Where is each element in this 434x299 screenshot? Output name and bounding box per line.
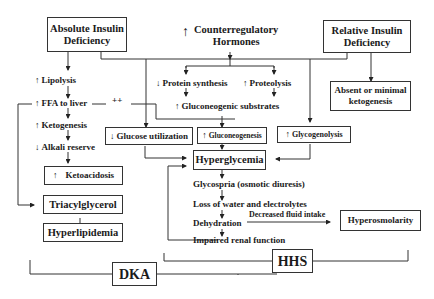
relative-insulin-line2: Deficiency [344, 37, 391, 49]
ffa-to-liver-label: FFA to liver [42, 98, 88, 108]
glucose-utilization-label: Glucose utilization [116, 131, 188, 142]
absent-ketogenesis-line2: ketogenesis [349, 96, 393, 107]
protein-synthesis-label: Protein synthesis [163, 78, 228, 88]
protein-synthesis-node: ↓Protein synthesis [156, 78, 228, 89]
up-arrow-icon: ↑ [285, 129, 290, 140]
glycogenolysis-box: ↑Glycogenolysis [277, 126, 351, 143]
up-arrow-icon: ↑ [53, 170, 58, 181]
glucose-utilization-box: ↓Glucose utilization [105, 127, 193, 145]
hyperlipidemia-label: Hyperlipidemia [48, 227, 119, 239]
up-arrow-icon: ↑ [175, 101, 180, 111]
counterregulatory-line2: Hormones [194, 36, 278, 48]
gluconeogenesis-box: ↑Gluconeogenesis [197, 127, 267, 144]
absent-ketogenesis-box: Absent or minimal ketogenesis [330, 81, 411, 111]
down-arrow-icon: ↓ [156, 78, 161, 88]
up-arrow-icon: ↑ [35, 98, 40, 108]
counterregulatory-hormones: ↑ Counterregulatory Hormones [180, 24, 278, 48]
gluconeogenic-substrates-node: ↑Gluconeogenic substrates [175, 101, 279, 112]
up-arrow-icon: ↑ [202, 130, 207, 141]
lipolysis-node: ↑Lipolysis [35, 75, 76, 86]
hyperosmolarity-label: Hyperosmolarity [348, 215, 413, 226]
gluconeogenic-substrates-label: Gluconeogenic substrates [182, 101, 280, 111]
ketoacidosis-label: Ketoacidosis [66, 170, 115, 181]
dka-label: DKA [119, 269, 150, 280]
counterregulatory-line1: Counterregulatory [194, 24, 278, 36]
triacylglycerol-box: Triacylglycerol [43, 195, 123, 214]
hhs-label: HHS [278, 256, 308, 267]
glycosuria-node: Glycospria (osmotic diuresis) [193, 179, 305, 190]
alkali-reserve-node: ↓Alkali reserve [35, 142, 95, 153]
ketogenesis-node: ↑Ketogenesis [35, 120, 87, 131]
lipolysis-label: Lipolysis [42, 75, 77, 85]
hyperglycemia-box: Hyperglycemia [193, 150, 266, 170]
hhs-box: HHS [272, 249, 313, 273]
absolute-insulin-line1: Absolute Insulin [50, 23, 124, 35]
up-arrow-icon: ↑ [35, 120, 40, 130]
absent-ketogenesis-line1: Absent or minimal [335, 85, 407, 96]
ffa-to-liver-node: ↑FFA to liver [35, 98, 87, 109]
glycogenolysis-label: Glycogenolysis [292, 129, 343, 140]
up-arrow-icon: ↑ [35, 75, 40, 85]
ketogenesis-label: Ketogenesis [42, 120, 88, 130]
hyperosmolarity-box: Hyperosmolarity [340, 210, 421, 231]
proteolysis-node: ↑Proteolysis [243, 78, 291, 89]
alkali-reserve-label: Alkali reserve [42, 142, 96, 152]
proteolysis-label: Proteolysis [250, 78, 292, 88]
impaired-renal-function-node: Impaired renal function [193, 235, 285, 246]
absolute-insulin-line2: Deficiency [64, 35, 111, 47]
relative-insulin-deficiency-box: Relative Insulin Deficiency [323, 20, 411, 53]
gluconeogenesis-label: Gluconeogenesis [209, 130, 262, 141]
dka-box: DKA [112, 262, 157, 286]
hyperglycemia-label: Hyperglycemia [195, 154, 263, 166]
hyperlipidemia-box: Hyperlipidemia [43, 223, 123, 242]
synergy-plus-label: ++ [112, 95, 122, 106]
down-arrow-icon: ↓ [35, 142, 40, 152]
down-arrow-icon: ↓ [110, 131, 115, 142]
dehydration-node: Dehydration [193, 218, 242, 229]
triacylglycerol-label: Triacylglycerol [49, 199, 116, 211]
up-arrow-icon: ↑ [243, 78, 248, 88]
ketoacidosis-box: ↑Ketoacidosis [44, 166, 123, 185]
up-arrow-icon: ↑ [182, 26, 189, 38]
decreased-fluid-intake-label: Decreased fluid intake [249, 209, 325, 220]
absolute-insulin-deficiency-box: Absolute Insulin Deficiency [47, 17, 127, 52]
relative-insulin-line1: Relative Insulin [332, 25, 403, 37]
